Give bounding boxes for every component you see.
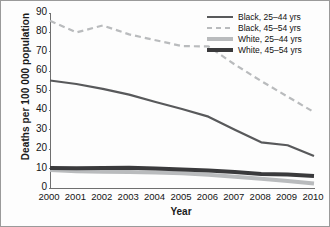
y-axis-tick-labels: 0102030405060708090 — [23, 1, 47, 198]
legend-item[interactable]: White, 25–44 yrs — [207, 34, 327, 44]
y-axis-tick-label: 60 — [25, 66, 47, 74]
legend-item[interactable]: Black, 45–54 yrs — [207, 23, 327, 33]
x-axis-title: Year — [49, 206, 313, 217]
y-axis-tick-label: 30 — [25, 125, 47, 133]
series-line — [50, 80, 314, 155]
series-line — [50, 170, 314, 184]
y-axis-tick-label: 0 — [25, 183, 47, 191]
legend-label: Black, 25–44 yrs — [238, 12, 301, 22]
x-axis-tick-label: 2010 — [296, 191, 330, 202]
legend-label: Black, 45–54 yrs — [238, 23, 301, 33]
legend-swatch — [207, 34, 233, 44]
y-axis-tick-label: 80 — [25, 27, 47, 35]
y-axis-tick-label: 40 — [25, 105, 47, 113]
y-axis-tick-label: 10 — [25, 164, 47, 172]
legend-swatch — [207, 23, 233, 33]
y-axis-tick-label: 50 — [25, 86, 47, 94]
chart-figure: Deaths per 100 000 population 0102030405… — [0, 0, 330, 227]
legend-label: White, 25–44 yrs — [238, 34, 302, 44]
x-axis-tick-labels: 2000200120022003200420052006200720082009… — [49, 191, 313, 205]
y-axis-tick-label: 90 — [25, 8, 47, 16]
chart-legend: Black, 25–44 yrsBlack, 45–54 yrsWhite, 2… — [207, 12, 327, 56]
y-axis-tick-label: 70 — [25, 47, 47, 55]
y-axis-tick-label: 20 — [25, 144, 47, 152]
legend-item[interactable]: Black, 25–44 yrs — [207, 12, 327, 22]
legend-swatch — [207, 12, 233, 22]
legend-label: White, 45–54 yrs — [238, 45, 302, 55]
legend-swatch — [207, 45, 233, 55]
legend-item[interactable]: White, 45–54 yrs — [207, 45, 327, 55]
